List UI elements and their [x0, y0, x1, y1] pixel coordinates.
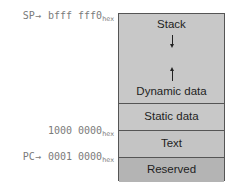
static-data-segment: Static data [119, 103, 224, 130]
text-segment: Text [119, 130, 224, 157]
sp-pointer-label: SP [23, 10, 35, 21]
static-start-address-label: 1000 0000hex [48, 125, 114, 138]
sp-arrow-icon: → [35, 10, 41, 21]
stack-dynamic-segment: Stack Dynamic data [119, 14, 224, 103]
stack-label: Stack [119, 18, 224, 30]
sp-address-label: SP→ bfff fff0hex [23, 10, 114, 23]
pc-arrow-icon: → [35, 151, 41, 162]
pc-pointer-label: PC [23, 151, 35, 162]
static-start-address-value: 1000 0000 [48, 125, 102, 136]
reserved-label: Reserved [119, 163, 224, 175]
dynamic-data-label: Dynamic data [119, 85, 224, 97]
static-start-address-suffix: hex [102, 130, 114, 138]
sp-address-value: bfff fff0 [48, 10, 102, 21]
heap-growth-up-arrow-icon [172, 70, 173, 81]
sp-address-suffix: hex [102, 15, 114, 23]
pc-address-suffix: hex [102, 156, 114, 164]
pc-address-value: 0001 0000 [48, 151, 102, 162]
reserved-segment: Reserved [119, 157, 224, 182]
stack-growth-down-arrow-icon [172, 35, 173, 45]
static-data-label: Static data [119, 110, 224, 122]
text-label: Text [119, 137, 224, 149]
pc-address-label: PC→ 0001 0000hex [23, 151, 114, 164]
memory-layout-box: Stack Dynamic data Static data Text Rese… [118, 13, 225, 181]
